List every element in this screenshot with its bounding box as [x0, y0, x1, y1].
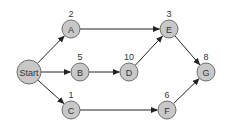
node-e: E3 [160, 9, 178, 38]
node-a: A2 [62, 9, 80, 38]
edge-e-to-g [175, 36, 200, 65]
node-label: A [68, 25, 74, 35]
node-label: D [126, 68, 133, 78]
node-weight: 3 [166, 9, 171, 19]
edge-start-to-c [38, 80, 64, 104]
node-f: F6 [158, 90, 176, 119]
network-diagram: StartA2B5C1D10E3F6G8 [0, 0, 226, 127]
edge-d-to-e [135, 36, 162, 65]
node-start: Start [17, 60, 41, 84]
node-g: G8 [197, 52, 215, 81]
node-weight: 6 [164, 90, 169, 100]
node-weight: 10 [124, 52, 134, 62]
node-b: B5 [71, 52, 89, 81]
edge-start-to-a [37, 36, 64, 64]
edge-f-to-g [173, 79, 199, 104]
node-label: C [68, 106, 75, 116]
node-label: B [77, 68, 83, 78]
node-weight: 8 [203, 52, 208, 62]
edges [37, 29, 199, 110]
node-label: G [202, 68, 209, 78]
node-weight: 2 [68, 9, 73, 19]
node-label: Start [19, 68, 39, 78]
node-d: D10 [120, 52, 138, 81]
node-c: C1 [62, 90, 80, 119]
node-label: F [164, 106, 170, 116]
node-weight: 1 [68, 90, 73, 100]
node-weight: 5 [77, 52, 82, 62]
nodes: StartA2B5C1D10E3F6G8 [17, 9, 215, 119]
node-label: E [166, 25, 172, 35]
